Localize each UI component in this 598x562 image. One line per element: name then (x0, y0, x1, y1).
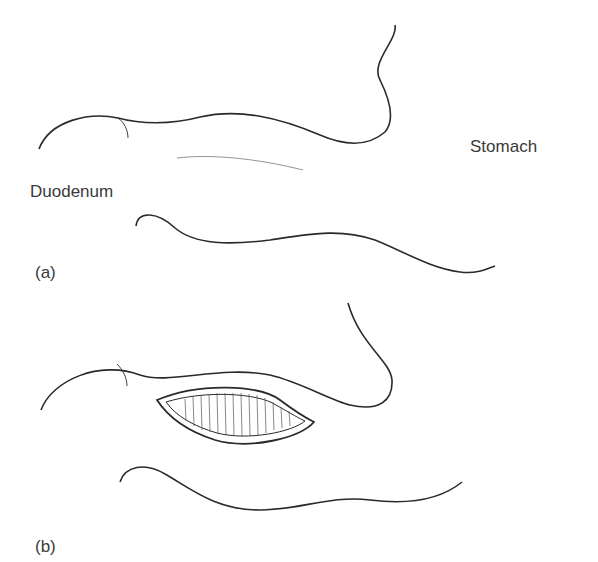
panel-b-label: (b) (35, 537, 56, 557)
duodenum-label: Duodenum (30, 182, 113, 202)
duodenal-bulb-line-a (118, 118, 128, 138)
upper-wall-a (39, 25, 395, 149)
duodenal-bulb-line-b (117, 364, 127, 386)
lower-wall-a (136, 215, 495, 273)
panel-a-label: (a) (35, 263, 56, 283)
panel-a-drawing (39, 25, 495, 273)
stomach-label: Stomach (470, 137, 537, 157)
diagram-canvas (0, 0, 598, 562)
incision-opening (157, 388, 314, 444)
lesser-curve-line-a (177, 157, 303, 171)
lower-wall-b (120, 467, 462, 510)
